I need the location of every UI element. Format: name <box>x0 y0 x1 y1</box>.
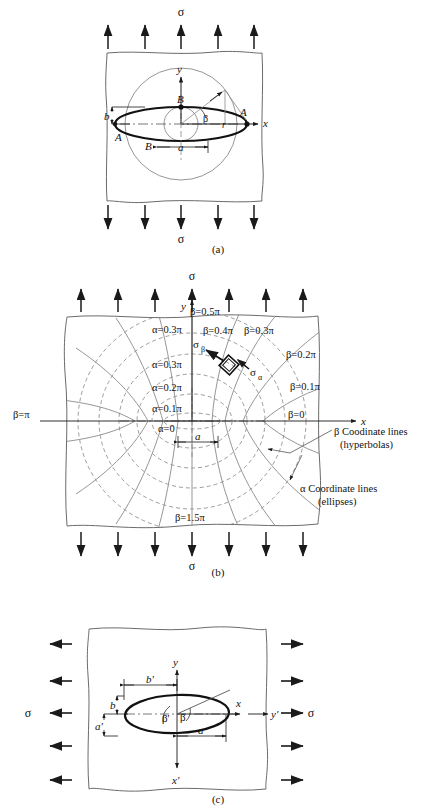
sigma-top-label-b: σ <box>189 269 196 283</box>
figure-b-canvas: σ <box>0 268 436 580</box>
beta-label-15pi: β=1.5π <box>175 512 205 523</box>
figure-b-caption: (b) <box>0 566 436 578</box>
radius-label-a: r <box>222 119 226 130</box>
dimension-a-label-a: a <box>178 141 184 153</box>
x-prime-axis-label-c: x' <box>171 774 180 786</box>
beta-label-pi: β=π <box>13 409 30 420</box>
beta-label-02pi: β=0.2π <box>286 349 316 360</box>
legend-alpha-line1: α Coordinate lines <box>300 483 377 494</box>
sigma-beta-label-b: σ <box>193 338 199 350</box>
y-axis-label-c: y <box>172 656 178 668</box>
alpha-label-3: α=0.1π <box>152 403 183 414</box>
y-prime-axis-label-c: y' <box>270 708 279 720</box>
beta-label-0: β=0 <box>288 409 305 420</box>
beta-label-04pi: β=0.4π <box>203 325 233 336</box>
beta-label-c: β <box>180 711 186 723</box>
dimension-a-label-c: a <box>198 724 204 736</box>
beta-label-01pi: β=0.1π <box>290 381 320 392</box>
dimension-b-label-c: b <box>110 699 116 711</box>
figure-c-caption: (c) <box>0 793 436 805</box>
dimension-a-label-b: a <box>195 430 201 442</box>
figure-c: σ σ y x' x y' β' β <box>0 588 436 812</box>
figure-c-canvas: σ σ y x' x y' β' β <box>0 588 436 812</box>
sigma-beta-sub-b: β <box>201 345 205 354</box>
beta-label-03pi: β=0.3π <box>244 325 274 336</box>
dimension-b-label-a: b <box>104 110 110 122</box>
dimension-a-prime-label-c: a' <box>95 720 104 732</box>
point-b-top-marker <box>178 104 183 109</box>
alpha-label-2: α=0.2π <box>152 382 183 393</box>
dimension-b-prime-label-c: b' <box>146 673 155 685</box>
legend-alpha-line2: (ellipses) <box>318 496 357 508</box>
sigma-alpha-label-b: σ <box>250 366 256 378</box>
figure-a-canvas: σ x y β <box>0 0 436 258</box>
radius-arrow-a <box>210 92 222 101</box>
point-b-top-label: B <box>177 93 184 105</box>
x-axis-label-a: x <box>262 117 268 129</box>
legend-beta-leader-b <box>290 430 332 453</box>
alpha-label-1: α=0.3π <box>152 359 183 370</box>
point-a-right-marker <box>244 121 249 126</box>
legend-beta-line1: β Coodinate lines <box>334 426 408 437</box>
point-a-right-label: A <box>239 106 247 118</box>
sigma-alpha-sub-b: α <box>258 373 263 382</box>
legend-alpha-leader-b <box>290 455 302 480</box>
load-arrows-top-a <box>108 25 254 49</box>
figure-a-caption: (a) <box>0 243 436 255</box>
y-axis-label-b: y <box>180 300 186 312</box>
load-arrows-bottom-b <box>81 532 303 556</box>
figure-a: σ x y β <box>0 0 436 258</box>
load-arrows-right-c <box>281 644 303 780</box>
stress-element-b <box>219 355 239 375</box>
point-b-bottom-label: B <box>145 140 152 152</box>
beta-prime-label-c: β' <box>162 712 170 724</box>
alpha-label-4: α=0 <box>158 423 175 434</box>
load-arrows-bottom-a <box>108 205 254 229</box>
alpha-label-0: α=0.3π <box>152 324 183 335</box>
beta-angle-label-a: β <box>203 113 208 124</box>
y-axis-label-a: y <box>176 63 182 75</box>
legend-beta-leader2-b <box>268 449 290 453</box>
sigma-right-label-c: σ <box>308 706 315 720</box>
point-a-left-label: A <box>114 131 122 143</box>
sigma-top-label-a: σ <box>178 5 185 19</box>
beta-label-05pi: β=0.5π <box>190 306 220 317</box>
x-axis-label-c: x <box>235 697 241 709</box>
legend-beta-line2: (hyperbolas) <box>340 439 394 451</box>
dimension-a-prime-c <box>104 714 118 736</box>
sigma-left-label-c: σ <box>25 706 32 720</box>
load-arrows-left-c <box>50 644 72 780</box>
figure-b: σ <box>0 268 436 580</box>
